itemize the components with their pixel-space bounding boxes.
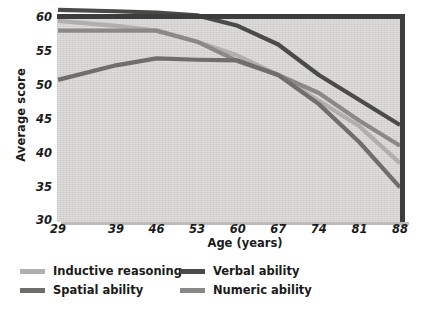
y-tick-label: 50 [22,80,52,92]
legend-item[interactable]: Spatial ability [20,283,143,297]
x-tick-label: 46 [139,224,175,236]
x-tick-label: 74 [301,224,337,236]
legend-swatch-icon [180,269,205,274]
x-tick-label: 29 [40,224,76,236]
series-line [58,58,400,187]
y-axis-tick-labels: 60 55 50 45 40 35 30 [18,0,52,240]
y-tick-label: 45 [22,114,52,126]
legend-label: Spatial ability [53,283,143,297]
legend-swatch-icon [180,288,205,293]
y-tick-label: 40 [22,148,52,160]
legend-item[interactable]: Verbal ability [180,264,300,278]
legend-item[interactable]: Numeric ability [180,283,312,297]
x-tick-label: 88 [382,224,418,236]
y-tick-label: 60 [22,12,52,24]
plot-frame-right [400,14,405,222]
x-tick-label: 39 [98,224,134,236]
x-axis-title: Age (years) [60,236,430,250]
y-tick-label: 55 [22,46,52,58]
legend-label: Verbal ability [213,264,300,278]
legend-label: Numeric ability [213,283,312,297]
plot-area [57,14,405,222]
x-tick-label: 60 [220,224,256,236]
x-tick-label: 67 [260,224,296,236]
legend-item[interactable]: Inductive reasoning [20,264,182,278]
plot-frame-top [57,14,405,19]
series-line [58,31,400,146]
x-tick-label: 53 [179,224,215,236]
x-tick-label: 81 [341,224,377,236]
legend-swatch-icon [20,288,45,293]
y-tick-label: 35 [22,182,52,194]
chart-legend: Inductive reasoning Spatial ability Verb… [20,262,420,304]
chart-figure: Average score 60 55 50 45 40 35 30 29394… [0,0,438,311]
legend-label: Inductive reasoning [53,264,182,278]
legend-swatch-icon [20,269,45,274]
series-lines [57,14,405,222]
